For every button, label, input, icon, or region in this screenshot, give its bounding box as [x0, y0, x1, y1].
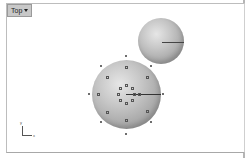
- y-axis-label: y: [20, 120, 22, 125]
- grip-point[interactable]: [150, 65, 152, 67]
- control-point[interactable]: [106, 76, 109, 79]
- control-point[interactable]: [125, 84, 128, 87]
- top-viewport[interactable]: Top y x: [6, 3, 245, 153]
- grip-point[interactable]: [100, 65, 102, 67]
- grip-point[interactable]: [125, 55, 127, 57]
- control-point[interactable]: [117, 93, 120, 96]
- grip-point[interactable]: [88, 93, 90, 95]
- control-point[interactable]: [131, 99, 134, 102]
- grip-point[interactable]: [150, 121, 152, 123]
- small-sphere-seam: [162, 42, 184, 43]
- control-point[interactable]: [133, 93, 136, 96]
- control-point[interactable]: [119, 87, 122, 90]
- world-axes-icon: y x: [20, 122, 34, 136]
- control-point[interactable]: [106, 111, 109, 114]
- control-point[interactable]: [138, 93, 141, 96]
- x-axis-label: x: [33, 133, 35, 138]
- control-point[interactable]: [125, 119, 128, 122]
- grip-point[interactable]: [125, 133, 127, 135]
- x-axis-line: [22, 135, 32, 136]
- viewport-title-tab[interactable]: Top: [7, 4, 32, 17]
- control-point[interactable]: [146, 110, 149, 113]
- control-point[interactable]: [131, 87, 134, 90]
- control-point[interactable]: [97, 93, 100, 96]
- dropdown-arrow-icon[interactable]: [24, 9, 28, 12]
- small-sphere[interactable]: [138, 18, 184, 64]
- grip-point[interactable]: [100, 121, 102, 123]
- control-point[interactable]: [119, 99, 122, 102]
- viewport-title: Top: [11, 5, 22, 16]
- control-point[interactable]: [146, 76, 149, 79]
- grip-point[interactable]: [162, 93, 164, 95]
- control-point[interactable]: [125, 102, 128, 105]
- control-point[interactable]: [125, 66, 128, 69]
- large-sphere-seam: [126, 94, 161, 95]
